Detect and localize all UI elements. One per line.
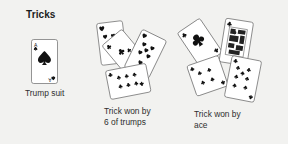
trick-ace-caption: Trick won by ace: [194, 109, 241, 130]
trump-suit-caption: Trump suit: [25, 88, 64, 99]
trick-group-ace: [177, 18, 262, 102]
trick-six-of-trumps-caption: Trick won by 6 of trumps: [104, 106, 151, 127]
trick-group-six-of-trumps: [96, 21, 166, 100]
trump-suit-card: A A: [32, 40, 58, 84]
figure-canvas: Tricks A A: [0, 0, 288, 144]
